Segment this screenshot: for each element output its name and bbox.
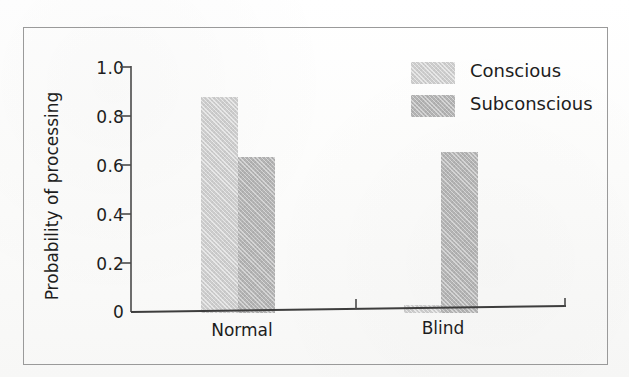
legend-swatch-subconscious	[411, 95, 455, 117]
axis-lines	[0, 0, 629, 377]
legend-label-subconscious: Subconscious	[470, 93, 593, 114]
chart-plot-area: Probability of processing 1.0 0.8 0.6 0.…	[0, 0, 629, 377]
legend-label-conscious: Conscious	[470, 60, 561, 81]
x-tick-label-normal: Normal	[182, 320, 302, 340]
legend-swatch-conscious	[411, 62, 455, 84]
figure-container: Probability of processing 1.0 0.8 0.6 0.…	[0, 0, 629, 377]
x-tick-label-blind: Blind	[383, 318, 503, 338]
